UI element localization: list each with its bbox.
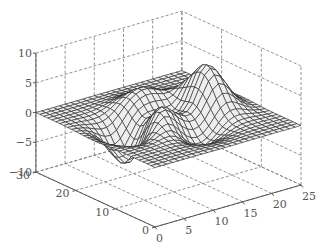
y-tick-label: 0: [142, 224, 149, 237]
x-tick-label: 20: [273, 198, 287, 211]
y-tick: [152, 227, 155, 228]
y-tick: [112, 209, 115, 210]
x-tick-label: 15: [244, 207, 258, 220]
z-tick-label: 5: [25, 77, 32, 90]
z-tick-label: 0: [25, 107, 32, 120]
x-tick: [301, 185, 303, 188]
y-axis-line: [36, 172, 155, 227]
x-tick: [184, 219, 186, 222]
x-tick-label: 5: [185, 224, 192, 237]
floor-grid-line: [65, 164, 184, 219]
x-tick: [155, 227, 157, 230]
y-tick-label: 20: [56, 187, 70, 200]
x-tick: [213, 210, 215, 213]
x-tick: [272, 193, 274, 196]
z-tick-label: −5: [16, 136, 32, 149]
x-tick-label: 25: [302, 190, 316, 203]
z-tick-label: −10: [9, 166, 32, 179]
x-tick-label: 10: [214, 215, 228, 228]
y-tick: [73, 190, 76, 191]
x-tick-label: 0: [156, 232, 163, 245]
z-tick-label: 10: [18, 47, 32, 60]
y-tick-label: 10: [95, 206, 109, 219]
back-wall-grid-line: [36, 11, 182, 53]
side-wall-grid-line: [182, 11, 301, 66]
surface-chart: 05101520250102030−10−50510: [0, 0, 322, 250]
x-tick: [243, 202, 245, 205]
